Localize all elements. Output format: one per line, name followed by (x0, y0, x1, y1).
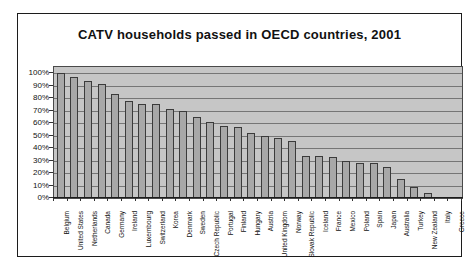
x-label-text: Denmark (186, 211, 193, 237)
y-tick-label-20: 20% (18, 168, 49, 177)
bar-belgium (57, 73, 65, 198)
x-label-text: Mexico (349, 211, 356, 232)
x-label-text: Netherlands (91, 211, 98, 246)
x-label-text: Sweden (199, 211, 206, 235)
x-tick (80, 198, 81, 201)
x-label-text: Greece (458, 211, 465, 232)
gridline-90 (54, 86, 462, 87)
x-label-text: Italy (444, 211, 451, 223)
bar-united-kingdom (274, 138, 282, 198)
bar-sweden (193, 117, 201, 198)
bar-luxembourg (138, 104, 146, 198)
y-tick-label-0: 0% (18, 193, 49, 202)
x-tick (325, 198, 326, 201)
y-tick-label-70: 70% (18, 106, 49, 115)
x-label-text: France (335, 211, 342, 231)
y-tick (49, 185, 53, 186)
bar-germany (111, 94, 119, 198)
x-label-text: United Kingdom (281, 211, 288, 257)
x-tick (189, 198, 190, 201)
bar-norway (288, 141, 296, 198)
y-tick-label-50: 50% (18, 131, 49, 140)
bar-hungary (247, 133, 255, 198)
x-label-text: Poland (363, 211, 370, 231)
bar-denmark (179, 111, 187, 198)
bar-czech-republic (206, 122, 214, 198)
x-tick (203, 198, 204, 201)
y-tick (49, 85, 53, 86)
y-tick-label-10: 10% (18, 181, 49, 190)
y-tick-label-80: 80% (18, 93, 49, 102)
x-label-text: Ireland (131, 211, 138, 231)
x-label-text: Switzerland (159, 211, 166, 245)
x-tick (148, 198, 149, 201)
x-tick (94, 198, 95, 201)
x-label-text: Belgium (63, 211, 70, 234)
x-label-text: Japan (390, 211, 397, 229)
x-tick (230, 198, 231, 201)
x-axis-line (53, 197, 463, 198)
x-label-text: Norway (295, 211, 302, 233)
bar-austria (261, 136, 269, 198)
x-tick (243, 198, 244, 201)
x-tick (216, 198, 217, 201)
y-tick-label-100: 100% (18, 68, 49, 77)
x-tick (298, 198, 299, 201)
chart-title: CATV households passed in OECD countries… (18, 27, 461, 42)
bar-korea (166, 109, 174, 198)
x-tick (352, 198, 353, 201)
x-label-text: Slovak Republic (308, 211, 315, 258)
y-tick-label-40: 40% (18, 143, 49, 152)
x-tick (311, 198, 312, 201)
bar-mexico (342, 161, 350, 198)
x-tick (67, 198, 68, 201)
bar-finland (234, 127, 242, 198)
x-tick (175, 198, 176, 201)
x-tick (162, 198, 163, 201)
y-tick (49, 172, 53, 173)
y-tick (49, 135, 53, 136)
x-tick (393, 198, 394, 201)
bar-netherlands (84, 81, 92, 198)
x-tick (135, 198, 136, 201)
x-tick (461, 198, 462, 201)
y-tick (49, 160, 53, 161)
x-label-text: Austria (267, 211, 274, 231)
x-label-text: Turkey (417, 211, 424, 231)
bar-ireland (125, 101, 133, 198)
bar-japan (383, 167, 391, 198)
x-tick (271, 198, 272, 201)
y-tick-label-90: 90% (18, 81, 49, 90)
bar-switzerland (152, 104, 160, 198)
bar-poland (356, 163, 364, 198)
y-tick (49, 97, 53, 98)
y-tick-label-30: 30% (18, 156, 49, 165)
x-label-text: Canada (104, 211, 111, 234)
bar-slovak-republic (302, 156, 310, 198)
x-tick (107, 198, 108, 201)
chart-frame: CATV households passed in OECD countries… (17, 13, 462, 257)
x-label-text: New Zealand (431, 211, 438, 249)
x-label-text: Iceland (322, 211, 329, 232)
x-label-text: Korea (172, 211, 179, 228)
x-label-text: Luxembourg (145, 211, 152, 247)
y-tick-label-60: 60% (18, 118, 49, 127)
bar-united-states (70, 77, 78, 198)
x-label-text: Portugal (227, 211, 234, 235)
y-tick (49, 147, 53, 148)
x-label-text: Hungary (254, 211, 261, 236)
y-tick (49, 122, 53, 123)
x-label-text: United States (77, 211, 84, 250)
bar-australia (397, 179, 405, 198)
x-label-text: Germany (118, 211, 125, 238)
x-tick (284, 198, 285, 201)
page: CATV households passed in OECD countries… (0, 0, 476, 276)
x-tick (257, 198, 258, 201)
x-tick (366, 198, 367, 201)
bar-spain (370, 163, 378, 198)
x-tick (434, 198, 435, 201)
bar-portugal (220, 126, 228, 198)
x-label-text: Czech Republic (213, 211, 220, 257)
x-tick (420, 198, 421, 201)
x-tick (339, 198, 340, 201)
